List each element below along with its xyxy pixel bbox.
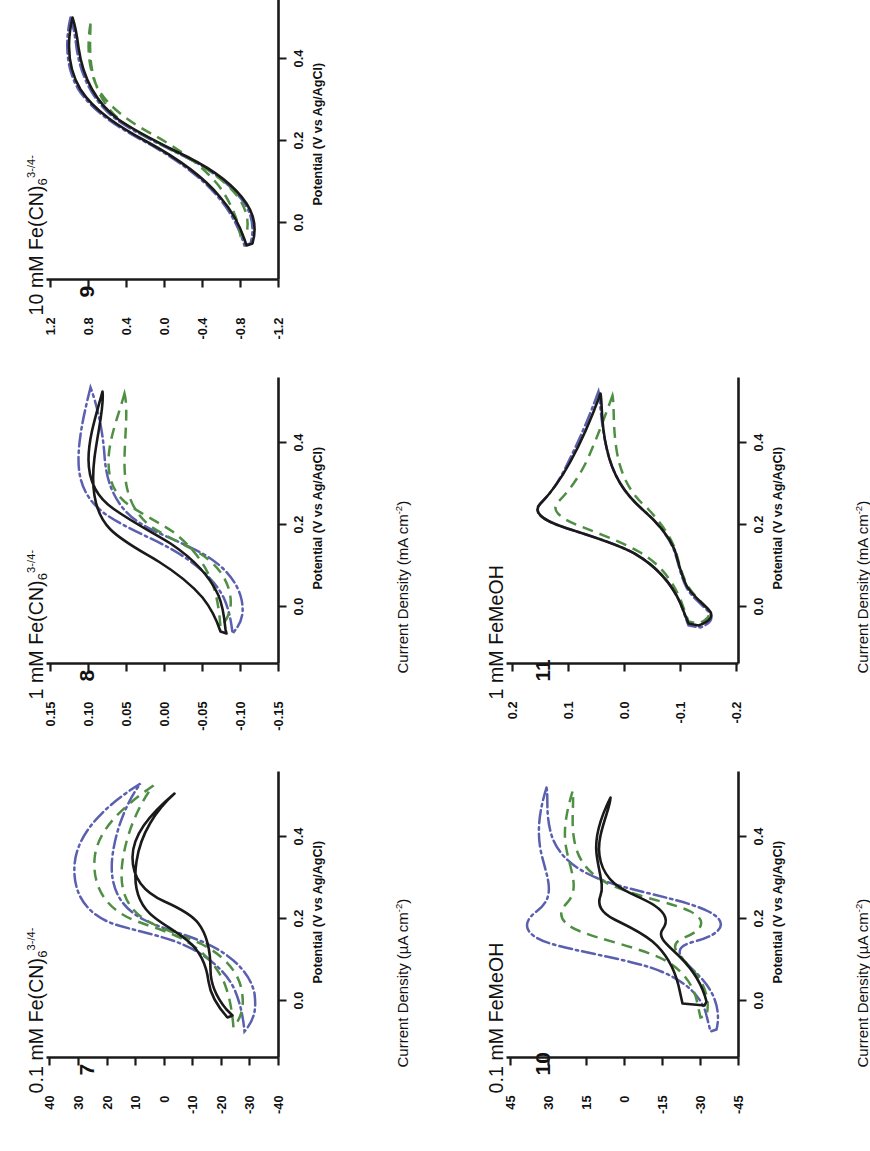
panel-10-ytick-2: 15 — [579, 1095, 594, 1109]
panel-10: 0.1 mM FeMeOH 10 0.0 0.2 0.4 Pot — [488, 763, 818, 1093]
panel-9-ytick-6: -1.2 — [271, 317, 286, 339]
panel-8-ytick-6: -0.15 — [271, 701, 286, 730]
panel-8-ytick-5: -0.10 — [233, 701, 248, 730]
yaxis-title-micro-row1-text: Current Density (µA cm — [393, 912, 410, 1067]
yaxis-title-micro-row2-tail: ) — [853, 898, 870, 903]
panel-7-xaxis-title: Potential (V vs Ag/AgCl) — [310, 840, 324, 983]
panel-11-plot — [488, 369, 778, 699]
yaxis-title-milli-row1-text: Current Density (mA cm — [393, 514, 410, 673]
yaxis-title-milli-row2-sup: -2 — [852, 505, 863, 513]
panel-9-ytick-5: -0.8 — [233, 317, 248, 339]
panel-9-dashdot-blue-trace — [67, 17, 252, 245]
panel-7-ytick-8: -40 — [271, 1095, 286, 1114]
panel-7-plot — [28, 763, 318, 1093]
yaxis-title-milli-row1-tail: ) — [393, 500, 410, 505]
panel-11-xtick-1: 0.2 — [750, 515, 765, 533]
panel-7-ytick-1: 30 — [71, 1095, 86, 1109]
panel-8-solid-black-trace — [88, 391, 226, 633]
panel-11-solid-black-trace — [537, 393, 711, 625]
yaxis-title-micro-row1-tail: ) — [393, 898, 410, 903]
panel-10-xtick-1: 0.2 — [750, 909, 765, 927]
yaxis-title-milli-row1: Current Density (mA cm-2) — [392, 500, 410, 673]
yaxis-title-milli-row2-tail: ) — [853, 500, 870, 505]
panel-7-ytick-3: 10 — [128, 1095, 143, 1109]
panel-7-xtick-1: 0.2 — [290, 909, 305, 927]
panel-8-ytick-4: -0.05 — [195, 701, 210, 730]
yaxis-title-milli-row2-text: Current Density (mA cm — [853, 514, 870, 673]
yaxis-title-micro-row2-sup: -2 — [852, 903, 863, 911]
panel-9-xtick-2: 0.4 — [290, 49, 305, 67]
panel-9-solid-black-trace — [69, 17, 254, 245]
panel-9-ytick-4: -0.4 — [195, 317, 210, 339]
yaxis-title-micro-row2: Current Density (µA cm-2) — [852, 898, 870, 1067]
panel-7-ytick-4: 0 — [157, 1095, 172, 1102]
panel-8-axes — [46, 377, 278, 663]
panel-10-ytick-0: 45 — [503, 1095, 518, 1109]
panel-11-ytick-3: -0.1 — [673, 701, 688, 723]
panel-9: 10 mM Fe(CN)63-/4- 9 0.0 0.2 0.4 — [28, 0, 358, 315]
panel-9-xtick-1: 0.2 — [290, 131, 305, 149]
panel-8-ytick-1: 0.10 — [81, 701, 96, 726]
panel-7-ytick-7: -30 — [242, 1095, 257, 1114]
panel-8-xaxis-title: Potential (V vs Ag/AgCl) — [310, 446, 324, 589]
panel-10-ytick-3: 0 — [617, 1095, 632, 1102]
panel-8-dashed-green-trace — [108, 393, 230, 627]
panel-7-dashed-green-trace — [94, 785, 242, 1027]
panel-11-ytick-4: -0.2 — [729, 701, 744, 723]
panel-11-xaxis-title: Potential (V vs Ag/AgCl) — [770, 446, 784, 589]
panel-8-ytick-2: 0.05 — [119, 701, 134, 726]
panel-11: 1 mM FeMeOH 11 0.0 0.2 0.4 Potential (V … — [488, 369, 818, 699]
panel-9-ytick-0: 1.2 — [43, 317, 58, 335]
panel-8-plot — [28, 369, 318, 699]
panel-7-xtick-0: 0.0 — [290, 991, 305, 1009]
yaxis-title-micro-row1-sup: -2 — [392, 903, 403, 911]
panel-8-xtick-1: 0.2 — [290, 515, 305, 533]
panel-9-xtick-0: 0.0 — [290, 213, 305, 231]
panel-10-ytick-6: -45 — [731, 1095, 746, 1114]
panel-11-xtick-0: 0.0 — [750, 597, 765, 615]
yaxis-title-milli-row1-sup: -2 — [392, 505, 403, 513]
panel-10-ytick-1: 30 — [541, 1095, 556, 1109]
panel-7-ytick-0: 40 — [42, 1095, 57, 1109]
panel-7-ytick-2: 20 — [100, 1095, 115, 1109]
panel-7: 0.1 mM Fe(CN)63-/4- 7 — [28, 763, 358, 1093]
panel-7-ytick-6: -20 — [214, 1095, 229, 1114]
panel-10-xaxis-title: Potential (V vs Ag/AgCl) — [770, 840, 784, 983]
panel-8-xtick-2: 0.4 — [290, 433, 305, 451]
panel-7-solid-black-trace — [132, 793, 232, 1017]
yaxis-title-micro-row1: Current Density (µA cm-2) — [392, 898, 410, 1067]
panel-11-xtick-2: 0.4 — [750, 433, 765, 451]
panel-11-ytick-2: 0.0 — [617, 701, 632, 719]
panel-7-xtick-2: 0.4 — [290, 827, 305, 845]
yaxis-title-micro-row2-text: Current Density (µA cm — [853, 912, 870, 1067]
panel-9-plot — [28, 0, 318, 315]
panel-8: 1 mM Fe(CN)63-/4- 8 0.0 0.2 0.4 — [28, 369, 358, 699]
panel-7-dashdot-blue-trace — [74, 783, 255, 1031]
panel-10-xtick-0: 0.0 — [750, 991, 765, 1009]
panel-11-ytick-1: 0.1 — [561, 701, 576, 719]
panel-7-ytick-5: -10 — [185, 1095, 200, 1114]
panel-10-solid-black-trace — [596, 797, 706, 1005]
yaxis-title-milli-row2: Current Density (mA cm-2) — [852, 500, 870, 673]
panel-10-plot — [488, 763, 778, 1093]
panel-9-xaxis-title: Potential (V vs Ag/AgCl) — [310, 62, 324, 205]
panel-10-dashdot-blue-trace — [527, 787, 721, 1031]
panel-10-ytick-5: -30 — [693, 1095, 708, 1114]
panel-10-ytick-4: -15 — [655, 1095, 670, 1114]
panel-9-ytick-3: 0.0 — [157, 317, 172, 335]
panel-9-ytick-1: 0.8 — [81, 317, 96, 335]
panel-8-ytick-0: 0.15 — [43, 701, 58, 726]
panel-10-xtick-2: 0.4 — [750, 827, 765, 845]
panel-11-dashdot-blue-trace — [537, 391, 711, 627]
panel-11-dashed-green-trace — [555, 395, 709, 623]
panel-8-xtick-0: 0.0 — [290, 597, 305, 615]
panel-8-ytick-3: 0.00 — [157, 701, 172, 726]
panel-9-ytick-2: 0.4 — [119, 317, 134, 335]
panel-11-ytick-0: 0.2 — [505, 701, 520, 719]
